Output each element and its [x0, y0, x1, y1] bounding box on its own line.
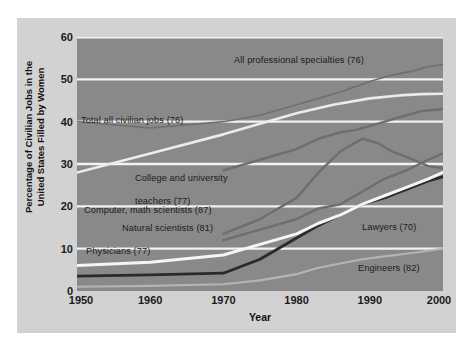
y-tick-label-40: 40 — [61, 116, 73, 127]
series-label-computer-math-scientists: Computer, math scientists (87) — [84, 205, 212, 217]
series-label-total-all-civilian-jobs: Total all civilian jobs (76) — [81, 115, 183, 127]
y-axis-ticks: 0102030405060 — [40, 37, 73, 291]
series-label-all-professional-specialties: All professional specialties (76) — [234, 55, 364, 67]
x-tick-label-2000: 2000 — [427, 294, 451, 306]
college-teachers-line-1: College and university — [135, 173, 228, 185]
series-label-engineers: Engineers (82) — [358, 263, 420, 275]
y-tick-label-20: 20 — [61, 201, 73, 212]
x-tick-label-1960: 1960 — [138, 294, 162, 306]
x-tick-label-1970: 1970 — [211, 294, 235, 306]
series-line-2 — [223, 109, 443, 170]
y-axis-title-line-1: Percentage of Civilian Jobs in the — [23, 30, 35, 245]
y-tick-label-50: 50 — [61, 74, 73, 85]
series-label-physicians: Physicians (77) — [86, 246, 150, 258]
y-tick-label-60: 60 — [61, 32, 73, 43]
x-tick-label-1990: 1990 — [358, 294, 382, 306]
y-tick-label-30: 30 — [61, 159, 73, 170]
series-label-lawyers: Lawyers (70) — [362, 222, 416, 234]
chart-figure: Percentage of Civilian Jobs in the Unite… — [0, 0, 473, 350]
x-axis-ticks: 195019601970198019902000 — [77, 294, 443, 310]
x-tick-label-1980: 1980 — [284, 294, 308, 306]
y-tick-label-10: 10 — [61, 243, 73, 254]
series-label-natural-scientists: Natural scientists (81) — [122, 223, 213, 235]
x-axis-title: Year — [77, 311, 443, 323]
x-tick-label-1950: 1950 — [69, 294, 93, 306]
